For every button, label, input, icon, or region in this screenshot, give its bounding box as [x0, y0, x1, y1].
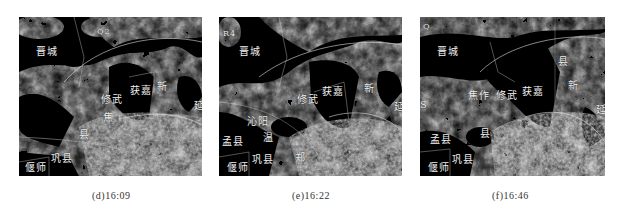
city-label-qinyang: 沁阳 — [247, 117, 269, 127]
city-label-yan: 延 — [394, 102, 402, 112]
radar-image-d: Q2 晋城 获嘉 新 修武 焦 延 县 巩县 偃师 — [19, 17, 202, 176]
city-label-xiuwu: 修武 — [101, 95, 123, 105]
city-label-jincheng: 晋城 — [36, 47, 58, 57]
city-label-gongxian: 巩县 — [452, 155, 474, 165]
city-label-county: 县 — [558, 57, 569, 67]
city-label-huojia: 获嘉 — [322, 87, 344, 97]
caption-e: (e)16:22 — [292, 190, 330, 201]
radar-marker: R4 — [223, 29, 236, 39]
city-label-gongxian: 巩县 — [252, 155, 274, 165]
city-label-gongxian: 巩县 — [51, 154, 73, 164]
city-label-zheng: 郑 — [295, 153, 306, 163]
city-label-jincheng: 晋城 — [239, 47, 261, 57]
city-label-mengxian: 孟县 — [430, 135, 452, 145]
city-label-xiuwu: 修武 — [496, 91, 518, 101]
city-label-yanshi: 偃师 — [227, 163, 249, 173]
radar-marker: Q2 — [97, 27, 111, 37]
radar-image-e: R4 晋城 获嘉 新 修武 沁阳 延 温 孟县 巩县 偃师 郑 — [219, 17, 402, 176]
city-label-huojia: 获嘉 — [130, 86, 152, 96]
city-label-s: S — [420, 100, 428, 110]
city-label-xinxiang: 新 — [568, 81, 579, 91]
city-label-yanshi: 偃师 — [428, 163, 450, 173]
city-label-jiaozuo: 焦作 — [468, 91, 490, 101]
city-label-xiuwu: 修武 — [297, 95, 319, 105]
radar-marker: Q — [423, 22, 431, 32]
radar-image-f: Q 晋城 获嘉 新 修武 焦作 县 延 S 县 孟县 巩县 偃师 — [420, 17, 605, 176]
city-label-jiaozuo: 焦 — [103, 113, 114, 123]
city-label-yanshi: 偃师 — [25, 163, 47, 173]
city-label-yan: 延 — [194, 101, 202, 111]
city-label-mengxian: 孟县 — [222, 137, 244, 147]
caption-f: (f)16:46 — [492, 190, 529, 201]
caption-d: (d)16:09 — [92, 190, 130, 201]
city-label-xinxiang: 新 — [157, 82, 168, 92]
city-label-yan: 延 — [596, 105, 605, 115]
city-label-xinxiang: 新 — [364, 84, 375, 94]
city-label-county2: 县 — [480, 129, 491, 139]
city-label-xian: 县 — [79, 130, 90, 140]
city-label-jincheng: 晋城 — [437, 47, 459, 57]
city-label-huojia: 获嘉 — [522, 87, 544, 97]
city-label-wenxian: 温 — [263, 133, 274, 143]
